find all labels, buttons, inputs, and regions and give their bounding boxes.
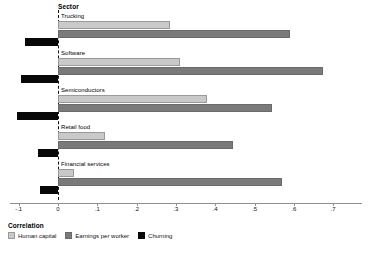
bar-churning <box>38 149 58 157</box>
bar-human-capital <box>58 169 74 177</box>
legend-swatch-icon <box>138 232 145 239</box>
bar-churning <box>21 75 58 83</box>
bar-human-capital <box>58 58 180 66</box>
bar-human-capital <box>58 95 207 103</box>
x-axis-line <box>10 203 362 204</box>
legend-label: Earnings per worker <box>75 233 129 239</box>
bar-earnings-per-worker <box>58 178 282 186</box>
legend-item[interactable]: Earnings per worker <box>65 232 129 239</box>
bar-earnings-per-worker <box>58 67 323 75</box>
bar-group: Semiconductors <box>0 87 369 124</box>
bar-earnings-per-worker <box>58 104 272 112</box>
bar-earnings-per-worker <box>58 141 233 149</box>
category-label: Retail food <box>61 124 90 130</box>
chart-container: Sector TruckingSoftwareSemiconductorsRet… <box>0 0 369 256</box>
bar-human-capital <box>58 21 170 29</box>
bar-earnings-per-worker <box>58 30 290 38</box>
x-axis-tick-label: .3 <box>173 206 178 212</box>
x-axis-tick-label: .1 <box>95 206 100 212</box>
bar-group: Financial services <box>0 161 369 198</box>
bar-human-capital <box>58 132 105 140</box>
bar-churning <box>17 112 58 120</box>
legend-items: Human capitalEarnings per workerChurning <box>8 232 358 239</box>
x-axis-tick-label: .6 <box>291 206 296 212</box>
category-label: Semiconductors <box>61 87 105 93</box>
category-label: Software <box>61 50 85 56</box>
bar-churning <box>25 38 58 46</box>
bar-group: Retail food <box>0 124 369 161</box>
plot-area: Sector TruckingSoftwareSemiconductorsRet… <box>0 0 369 200</box>
category-label: Trucking <box>61 13 84 19</box>
x-axis-tick-label: .2 <box>134 206 139 212</box>
x-axis-tick-label: -.1 <box>15 206 22 212</box>
bar-group: Software <box>0 50 369 87</box>
legend-label: Churning <box>148 233 172 239</box>
x-axis-tick-label: .7 <box>331 206 336 212</box>
legend-item[interactable]: Churning <box>138 232 172 239</box>
legend-swatch-icon <box>8 232 15 239</box>
x-axis-tick-label: .4 <box>213 206 218 212</box>
x-axis-tick-label: 0 <box>56 206 59 212</box>
category-label: Financial services <box>61 161 110 167</box>
legend-label: Human capital <box>18 233 56 239</box>
legend: Correlation Human capitalEarnings per wo… <box>8 222 358 239</box>
legend-item[interactable]: Human capital <box>8 232 56 239</box>
legend-title: Correlation <box>8 222 358 229</box>
legend-swatch-icon <box>65 232 72 239</box>
x-axis-tick-label: .5 <box>252 206 257 212</box>
bar-churning <box>40 186 58 194</box>
group-axis-title: Sector <box>58 3 79 10</box>
bar-group: Trucking <box>0 13 369 50</box>
